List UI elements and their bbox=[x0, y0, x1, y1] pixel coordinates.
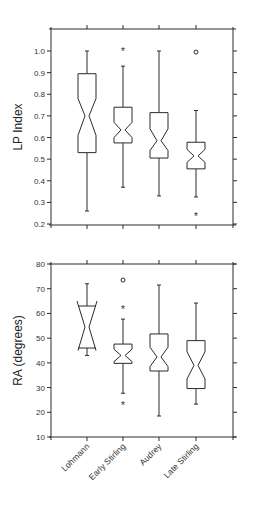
y-tick-label: 40 bbox=[36, 359, 45, 368]
y-tick-label: 30 bbox=[36, 384, 45, 393]
x-category-label: Lohmann bbox=[59, 441, 91, 473]
y-tick-label: 0.6 bbox=[34, 134, 46, 143]
box-late-stirling: * bbox=[187, 50, 205, 222]
y-tick-label: 70 bbox=[36, 285, 45, 294]
box-lohmann bbox=[78, 51, 96, 211]
y-tick-label: 0.4 bbox=[34, 177, 46, 186]
y-tick-label: 0.9 bbox=[34, 69, 46, 78]
y-tick-label: 1.0 bbox=[34, 47, 46, 56]
box-audrey bbox=[150, 51, 168, 196]
y-tick-label: 0.2 bbox=[34, 220, 46, 229]
y-tick-label: 20 bbox=[36, 408, 45, 417]
box-lohmann bbox=[77, 284, 97, 356]
x-category-label: Audrey bbox=[137, 441, 164, 468]
box-audrey bbox=[150, 285, 168, 416]
y-tick-label: 60 bbox=[36, 309, 45, 318]
notch-right bbox=[89, 301, 97, 350]
outlier-asterisk: * bbox=[121, 46, 125, 57]
y-axis-title: RA (degrees) bbox=[11, 315, 25, 386]
notch-left bbox=[77, 301, 85, 350]
y-tick-label: 50 bbox=[36, 334, 45, 343]
outlier-asterisk: * bbox=[121, 400, 125, 411]
box-early-stirling: ** bbox=[114, 278, 132, 411]
y-tick-label: 0.7 bbox=[34, 112, 46, 121]
outlier-circle bbox=[194, 50, 198, 54]
figure: 0.20.30.40.50.60.70.80.91.0LP Index** 10… bbox=[0, 0, 255, 508]
ra-degrees-boxplot: 1020304050607080RA (degrees)** bbox=[11, 260, 237, 442]
notched-box bbox=[114, 107, 132, 143]
y-tick-label: 0.5 bbox=[34, 155, 46, 164]
outlier-asterisk: * bbox=[194, 211, 198, 222]
notched-box bbox=[150, 334, 168, 371]
notched-box bbox=[187, 142, 205, 169]
box-early-stirling: * bbox=[114, 46, 132, 187]
y-tick-label: 10 bbox=[36, 433, 45, 442]
notched-box bbox=[187, 341, 205, 389]
y-tick-label: 0.3 bbox=[34, 198, 46, 207]
y-axis-title: LP Index bbox=[11, 103, 25, 150]
notched-box bbox=[78, 74, 96, 153]
x-category-label: Early Stirling bbox=[87, 441, 128, 482]
outlier-circle bbox=[121, 278, 125, 282]
x-category-label: Late Stirling bbox=[162, 441, 201, 480]
box-late-stirling bbox=[187, 303, 205, 404]
x-axis-category-labels: LohmannEarly StirlingAudreyLate Stirling bbox=[59, 441, 200, 482]
y-tick-label: 0.8 bbox=[34, 90, 46, 99]
lp-index-boxplot: 0.20.30.40.50.60.70.80.91.0LP Index** bbox=[11, 25, 237, 229]
notched-box bbox=[150, 113, 168, 158]
outlier-asterisk: * bbox=[121, 304, 125, 315]
notched-box bbox=[114, 344, 132, 363]
y-tick-label: 80 bbox=[36, 260, 45, 269]
boxplot-figure: 0.20.30.40.50.60.70.80.91.0LP Index** 10… bbox=[0, 0, 255, 508]
